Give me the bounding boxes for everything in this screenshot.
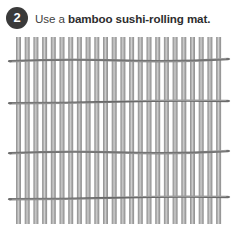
mat-slat bbox=[77, 37, 82, 224]
mat-slat bbox=[16, 37, 21, 224]
mat-string-knot bbox=[226, 100, 230, 102]
mat-slat bbox=[86, 37, 91, 224]
mat-string-knot bbox=[8, 152, 12, 154]
mat-slat bbox=[94, 37, 99, 224]
mat-slat bbox=[42, 37, 47, 224]
mat-binding-string bbox=[10, 59, 228, 61]
mat-slat bbox=[112, 37, 117, 224]
mat-string-knot bbox=[226, 150, 230, 152]
mat-slat bbox=[129, 37, 134, 224]
bamboo-mat-illustration bbox=[0, 0, 239, 236]
bamboo-mat-svg bbox=[0, 0, 239, 236]
mat-string-group bbox=[8, 58, 230, 200]
mat-string-knot bbox=[8, 60, 12, 62]
mat-slat bbox=[103, 37, 108, 224]
mat-slat bbox=[25, 37, 30, 224]
mat-slat bbox=[120, 37, 125, 224]
illustration-step-card: 2 Use a bamboo sushi-rolling mat. bbox=[0, 0, 239, 236]
mat-string-knot bbox=[8, 102, 12, 104]
mat-string-knot bbox=[226, 196, 230, 198]
mat-binding-string bbox=[10, 151, 228, 153]
mat-string-knot bbox=[226, 58, 230, 60]
mat-slat bbox=[51, 37, 56, 224]
mat-slat bbox=[33, 37, 38, 224]
mat-slat bbox=[68, 37, 73, 224]
mat-string-knot bbox=[8, 198, 12, 200]
mat-slat bbox=[60, 37, 65, 224]
